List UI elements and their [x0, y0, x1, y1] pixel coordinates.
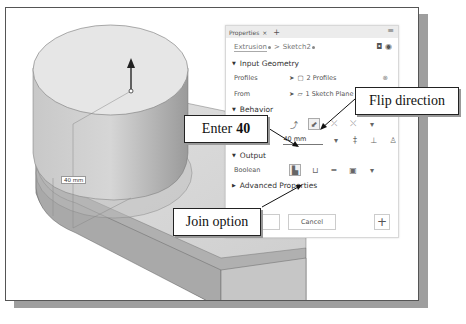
caret-down-icon: ▼	[232, 152, 236, 158]
profile-icon: ▢	[297, 74, 303, 82]
section-title: Input Geometry	[240, 59, 299, 68]
cancel-button[interactable]: Cancel	[288, 214, 336, 230]
flip-direction-icon[interactable]: ⬋	[308, 118, 320, 130]
callout-join-option: Join option	[173, 208, 261, 236]
from-value: 1 Sketch Plane	[305, 90, 353, 98]
section-input-geometry[interactable]: ▼ Input Geometry	[226, 56, 398, 70]
new-solid-icon[interactable]: ▣	[348, 165, 358, 175]
caret-right-icon: ▶	[232, 182, 236, 188]
profiles-label: Profiles	[234, 74, 289, 82]
breadcrumb-separator: >	[274, 43, 280, 51]
apply-add-button[interactable]: +	[374, 214, 390, 230]
boolean-label: Boolean	[234, 166, 289, 174]
info-dot-icon	[268, 46, 271, 49]
intersect-icon[interactable]: ═	[329, 165, 339, 175]
callout-enter-40: Enter40	[184, 115, 268, 143]
info-dot-icon	[312, 46, 315, 49]
callout-enter-prefix: Enter	[202, 121, 232, 137]
dimension-label[interactable]: 40 mm	[61, 176, 86, 184]
callout-enter-value: 40	[236, 121, 250, 137]
profiles-value: 2 Profiles	[307, 74, 337, 82]
cursor-icon: ➤	[289, 74, 294, 82]
panel-menu-icon[interactable]: ≡	[387, 26, 394, 35]
visibility-icon[interactable]: ◘ ◉	[376, 42, 392, 51]
section-output[interactable]: ▼ Output	[226, 148, 398, 162]
tab-properties[interactable]: Properties	[229, 29, 259, 36]
perpendicular-icon[interactable]: ⊥	[369, 135, 379, 145]
distance-a-input[interactable]: 40 mm	[283, 135, 323, 145]
clear-icon[interactable]: ⊗	[383, 74, 388, 82]
caret-down-icon: ▼	[232, 106, 236, 112]
row-boolean: Boolean ▙ ⊔ ═ ▣ ▾	[226, 162, 398, 178]
callout-flip-direction: Flip direction	[355, 87, 459, 115]
asymmetric-icon[interactable]: ⤬	[348, 119, 358, 129]
from-label: From	[234, 90, 289, 98]
section-title: Advanced Properties	[240, 181, 317, 190]
caret-down-icon: ▼	[232, 60, 236, 66]
taper-icon[interactable]: ‡	[350, 135, 360, 145]
breadcrumb-sketch[interactable]: Sketch2	[283, 43, 311, 51]
plane-icon: ▱	[297, 90, 302, 98]
more-dropdown-icon[interactable]: ▾	[367, 119, 377, 129]
breadcrumb: Extrusion > Sketch2 ◘ ◉	[226, 38, 398, 56]
add-tab-icon[interactable]: +	[273, 28, 280, 37]
row-profiles: Profiles ➤ ▢ 2 Profiles ⊗	[226, 70, 398, 86]
join-icon[interactable]: ▙	[289, 164, 301, 176]
breadcrumb-extrusion[interactable]: Extrusion	[234, 43, 267, 52]
cursor-icon: ➤	[289, 90, 294, 98]
section-advanced-properties[interactable]: ▶ Advanced Properties	[226, 178, 398, 192]
section-title: Output	[240, 151, 266, 160]
cut-icon[interactable]: ⊔	[310, 165, 320, 175]
close-icon[interactable]: ×	[262, 29, 267, 36]
section-title: Behavior	[240, 105, 273, 114]
symmetric-icon[interactable]: ⤫	[329, 119, 339, 129]
match-shape-icon[interactable]: ♙	[388, 135, 398, 145]
distance-dropdown-icon[interactable]: ▾	[331, 135, 341, 145]
boolean-dropdown-icon[interactable]: ▾	[367, 165, 377, 175]
direction-default-icon[interactable]: ⤴	[289, 119, 299, 129]
profiles-selector[interactable]: ➤ ▢ 2 Profiles	[289, 74, 336, 82]
from-selector[interactable]: ➤ ▱ 1 Sketch Plane	[289, 90, 353, 98]
panel-titlebar: Properties × + ≡	[226, 26, 398, 38]
